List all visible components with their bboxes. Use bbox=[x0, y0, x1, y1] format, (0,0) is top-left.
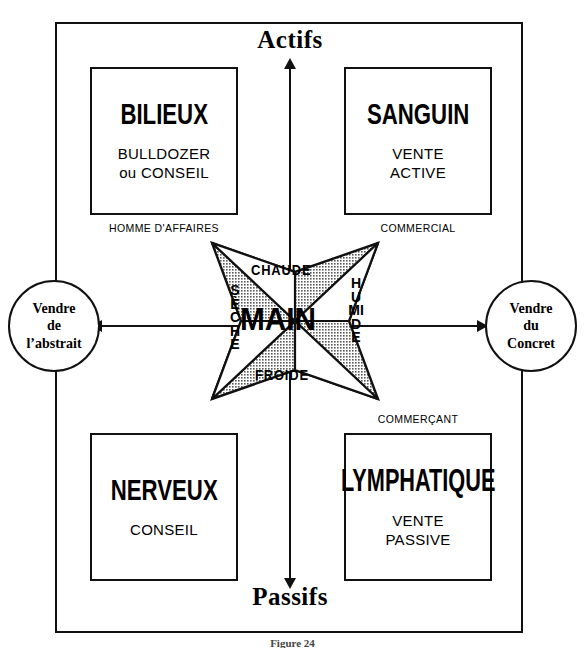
circle-right-line2: du bbox=[507, 317, 555, 334]
star-label-humide: HUMIDE bbox=[348, 277, 364, 345]
quadrant-box-bilieux: BILIEUX BULLDOZER ou CONSEIL bbox=[90, 67, 238, 215]
circle-right-text: Vendre du Concret bbox=[503, 300, 559, 351]
quadrant-caption-commercial: COMMERCIAL bbox=[318, 222, 518, 234]
quadrant-caption-commercant: COMMERÇANT bbox=[318, 413, 518, 425]
star-label-froide: FROIDE bbox=[255, 366, 309, 383]
quadrant-title-bilieux: BILIEUX bbox=[120, 99, 208, 129]
quadrant-caption-homme-daffaires: HOMME D'AFFAIRES bbox=[64, 222, 264, 234]
star-label-chaude: CHAUDE bbox=[251, 261, 311, 278]
circle-right-line1: Vendre bbox=[507, 300, 555, 317]
quadrant-box-nerveux: NERVEUX CONSEIL bbox=[90, 433, 238, 581]
quadrant-role-line1: BULLDOZER bbox=[118, 145, 211, 164]
quadrant-role-bilieux: BULLDOZER ou CONSEIL bbox=[118, 145, 211, 183]
circle-right-line3: Concret bbox=[507, 335, 555, 352]
circle-left-line1: Vendre bbox=[26, 300, 81, 317]
circle-vendre-abstrait: Vendre de l’abstrait bbox=[8, 280, 100, 372]
quadrant-role-line1: CONSEIL bbox=[130, 521, 198, 540]
arrow-up-icon bbox=[284, 58, 296, 69]
quadrant-box-lymphatique: LYMPHATIQUE VENTE PASSIVE bbox=[344, 433, 492, 581]
quadrant-role-nerveux: CONSEIL bbox=[130, 521, 198, 540]
axis-label-actifs: Actifs bbox=[190, 26, 390, 54]
quadrant-role-line1: VENTE bbox=[390, 145, 446, 164]
arrow-down-icon bbox=[284, 578, 296, 589]
figure-caption: Figure 24 bbox=[0, 637, 585, 648]
quadrant-role-line1: VENTE bbox=[385, 512, 450, 531]
quadrant-role-sanguin: VENTE ACTIVE bbox=[390, 145, 446, 183]
circle-left-line3: l’abstrait bbox=[26, 335, 81, 352]
diagram-canvas: Actifs Passifs BILIEUX BULLDOZER ou CONS… bbox=[0, 0, 585, 648]
quadrant-title-lymphatique: LYMPHATIQUE bbox=[341, 465, 495, 496]
circle-left-line2: de bbox=[26, 317, 81, 334]
quadrant-role-lymphatique: VENTE PASSIVE bbox=[385, 512, 450, 550]
quadrant-role-line2: ACTIVE bbox=[390, 164, 446, 183]
quadrant-title-sanguin: SANGUIN bbox=[367, 99, 469, 129]
quadrant-role-line2: PASSIVE bbox=[385, 531, 450, 550]
circle-left-text: Vendre de l’abstrait bbox=[22, 300, 85, 351]
quadrant-title-nerveux: NERVEUX bbox=[111, 475, 218, 505]
quadrant-box-sanguin: SANGUIN VENTE ACTIVE bbox=[344, 67, 492, 215]
quadrant-role-line2: ou CONSEIL bbox=[118, 164, 211, 183]
star-label-main: MAIN bbox=[240, 302, 316, 338]
circle-vendre-concret: Vendre du Concret bbox=[485, 280, 577, 372]
